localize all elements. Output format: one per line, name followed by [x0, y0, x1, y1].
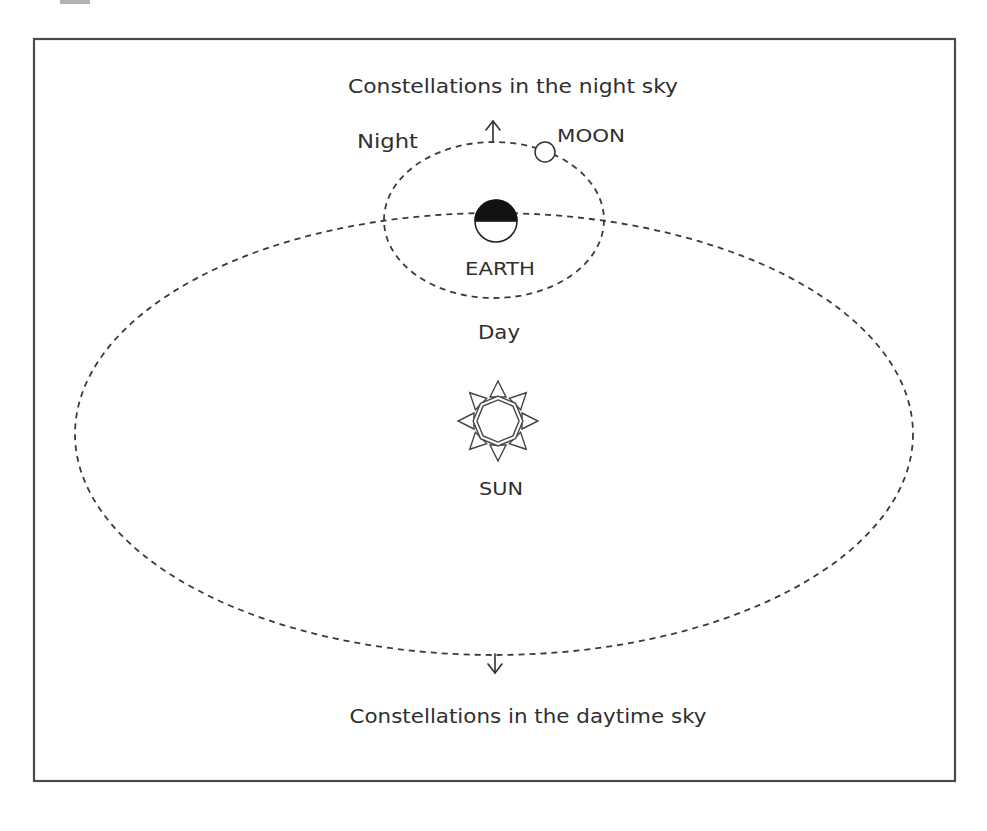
cutoff-header-fragment: [60, 0, 90, 4]
earth-label: EARTH: [465, 258, 535, 279]
earth-moon-sun-diagram: Constellations in the night sky Night MO…: [0, 0, 987, 831]
moon-icon: [535, 142, 555, 162]
daytime-sky-caption: Constellations in the daytime sky: [350, 705, 707, 727]
earth-icon: [475, 200, 517, 242]
night-label: Night: [357, 130, 418, 152]
night-sky-caption: Constellations in the night sky: [348, 75, 678, 97]
day-label: Day: [478, 321, 520, 343]
moon-label: MOON: [557, 125, 625, 146]
sun-icon: [458, 381, 538, 461]
sun-label: SUN: [479, 478, 523, 499]
